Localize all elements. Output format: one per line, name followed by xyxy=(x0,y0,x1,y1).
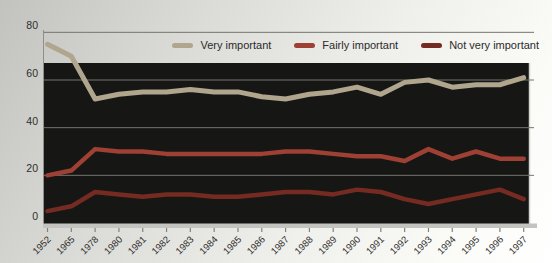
x-axis-tick-label: 1986 xyxy=(244,234,267,257)
y-axis-tick-label: 80 xyxy=(26,19,38,31)
x-axis-tick-label: 1993 xyxy=(411,234,434,257)
y-axis-tick-label: 20 xyxy=(26,162,38,174)
x-axis-tick-label: 1995 xyxy=(459,234,482,257)
y-axis-tick-label: 0 xyxy=(32,210,38,222)
x-axis-tick-label: 1997 xyxy=(506,234,529,257)
x-axis-tick-label: 1987 xyxy=(268,234,291,257)
x-axis-line xyxy=(43,224,537,229)
x-axis-tick-label: 1982 xyxy=(149,234,172,257)
x-axis-tick-label: 1996 xyxy=(483,234,506,257)
x-axis-tick-label: 1991 xyxy=(364,234,387,257)
legend-swatch-icon xyxy=(294,43,315,48)
x-axis-tick-label: 1992 xyxy=(387,234,410,257)
x-axis-tick-label: 1978 xyxy=(78,234,101,257)
x-axis-tick-label: 1981 xyxy=(125,234,148,257)
legend-swatch-icon xyxy=(172,43,193,48)
legend-label: Fairly important xyxy=(322,40,398,51)
x-axis-tick-label: 1965 xyxy=(54,234,77,257)
y-axis-tick-label: 40 xyxy=(26,115,38,127)
x-axis-tick-label: 1994 xyxy=(435,234,458,257)
legend-item-very-important: Very important xyxy=(172,40,271,51)
x-axis-tick-label: 1980 xyxy=(102,234,125,257)
legend: Very important Fairly important Not very… xyxy=(172,40,539,51)
legend-swatch-icon xyxy=(421,43,442,48)
x-axis-tick-label: 1952 xyxy=(30,234,53,257)
religion-importance-chart: 1952196519781980198119821983198419851986… xyxy=(0,0,552,263)
x-axis-tick-label: 1989 xyxy=(316,234,339,257)
x-axis-tick-label: 1983 xyxy=(173,234,196,257)
x-axis-tick-label: 1984 xyxy=(197,234,220,257)
y-axis-tick-label: 60 xyxy=(26,67,38,79)
legend-item-not-very-important: Not very important xyxy=(421,40,539,51)
legend-label: Not very important xyxy=(449,40,539,51)
x-axis-tick-label: 1988 xyxy=(292,234,315,257)
x-axis-tick-label: 1985 xyxy=(221,234,244,257)
legend-item-fairly-important: Fairly important xyxy=(294,40,398,51)
x-axis-tick-label: 1990 xyxy=(340,234,363,257)
legend-label: Very important xyxy=(200,40,271,51)
